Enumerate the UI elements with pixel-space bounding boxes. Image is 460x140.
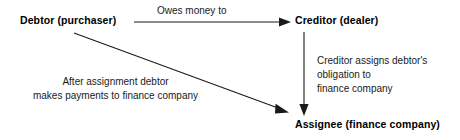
edge-label-owes-money-to: Owes money to	[157, 4, 226, 18]
arrowhead-horizontal	[279, 17, 291, 26]
arrow-creditor-to-assignee	[299, 32, 308, 116]
edge-label-line-2: obligation to	[317, 68, 427, 82]
edge-label-line-1: Creditor assigns debtor's	[317, 54, 427, 68]
edge-label-creditor-assigns: Creditor assigns debtor's obligation to …	[317, 54, 427, 96]
arrowhead-vertical	[299, 104, 308, 116]
node-label-creditor: Creditor (dealer)	[295, 14, 378, 26]
edge-label-line-2: makes payments to finance company	[13, 89, 218, 103]
arrowhead-diagonal	[275, 104, 289, 114]
edge-label-after-assignment: After assignment debtor makes payments t…	[13, 75, 218, 103]
edge-label-line-3: finance company	[317, 82, 427, 96]
arrow-debtor-to-creditor	[134, 17, 291, 26]
node-label-debtor: Debtor (purchaser)	[20, 14, 116, 26]
node-label-assignee: Assignee (finance company)	[295, 118, 440, 130]
edge-label-line-1: After assignment debtor	[13, 75, 218, 89]
